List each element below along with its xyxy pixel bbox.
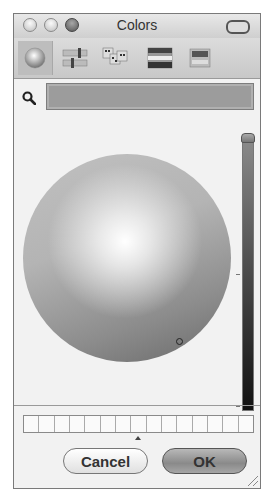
swatch[interactable]	[162, 416, 177, 432]
window-title: Colors	[14, 17, 260, 33]
swatch[interactable]	[223, 416, 238, 432]
swatch[interactable]	[208, 416, 223, 432]
color-wheel-cursor[interactable]	[176, 338, 183, 345]
swatch[interactable]	[239, 416, 253, 432]
swatch-resize-handle[interactable]	[135, 436, 141, 440]
picker-toolbar	[14, 38, 260, 79]
color-swatch-bar[interactable]	[23, 415, 254, 433]
color-palettes-icon	[102, 47, 128, 69]
swatch[interactable]	[193, 416, 208, 432]
swatch[interactable]	[39, 416, 54, 432]
swatch[interactable]	[24, 416, 39, 432]
picker-content: Cancel OK	[14, 79, 260, 488]
brightness-slider[interactable]	[242, 139, 254, 411]
swatch[interactable]	[55, 416, 70, 432]
color-wheel[interactable]	[23, 154, 231, 362]
image-palettes-icon	[147, 47, 173, 69]
swatch[interactable]	[131, 416, 146, 432]
toolbar-toggle-button[interactable]	[226, 20, 250, 34]
swatch[interactable]	[147, 416, 162, 432]
ok-button[interactable]: OK	[162, 448, 247, 474]
slider-tick	[236, 406, 240, 407]
color-sliders-icon	[62, 47, 88, 69]
title-bar[interactable]: Colors	[14, 14, 260, 38]
swatch[interactable]	[70, 416, 85, 432]
color-wheel-icon	[23, 46, 47, 70]
tab-color-palettes[interactable]	[98, 41, 132, 75]
crayons-icon	[188, 47, 212, 69]
swatch[interactable]	[85, 416, 100, 432]
swatch[interactable]	[177, 416, 192, 432]
window-resize-grip[interactable]	[248, 476, 258, 486]
tab-crayons[interactable]	[183, 41, 217, 75]
slider-tick	[236, 274, 240, 275]
tab-color-wheel[interactable]	[18, 41, 53, 75]
swatch[interactable]	[116, 416, 131, 432]
tab-image-palettes[interactable]	[143, 41, 177, 75]
cancel-button[interactable]: Cancel	[63, 448, 148, 474]
search-icon	[22, 91, 36, 105]
search-input[interactable]	[46, 83, 254, 110]
divider	[14, 405, 260, 406]
brightness-slider-knob[interactable]	[241, 133, 255, 143]
swatch[interactable]	[101, 416, 116, 432]
tab-color-sliders[interactable]	[58, 41, 92, 75]
colors-window: Colors	[13, 13, 261, 489]
